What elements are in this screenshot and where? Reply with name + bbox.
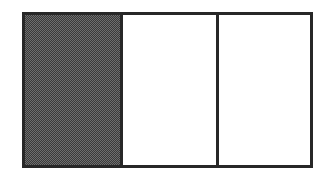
figure-canvas (0, 0, 333, 180)
panel-middle-blank (123, 15, 216, 165)
panel-left-shaded (25, 15, 120, 165)
outer-rectangle-frame (22, 12, 313, 168)
panel-right-blank (219, 15, 310, 165)
